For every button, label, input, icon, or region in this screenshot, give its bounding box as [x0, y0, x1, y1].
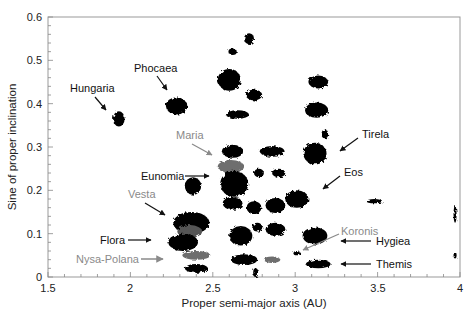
label-eunomia: Eunomia	[141, 170, 185, 182]
cluster-eunomia	[220, 171, 248, 197]
y-tick-label: 0.1	[27, 228, 42, 240]
cluster	[185, 177, 201, 194]
label-themis: Themis	[376, 258, 413, 270]
cluster	[226, 110, 249, 119]
label-hungaria: Hungaria	[70, 82, 116, 94]
cluster	[252, 223, 262, 232]
y-tick-label: 0	[36, 271, 42, 283]
cluster	[454, 252, 457, 258]
cluster	[244, 33, 254, 44]
x-tick-label: 2.5	[205, 282, 220, 294]
cluster	[366, 199, 382, 203]
y-tick-label: 0.3	[27, 141, 42, 153]
cluster	[228, 48, 236, 55]
x-tick-label: 4	[457, 282, 463, 294]
cluster-themis	[306, 260, 331, 269]
y-tick-label: 0.4	[27, 98, 42, 110]
label-tirela: Tirela	[362, 128, 390, 140]
y-axis-title: Sine of proper inclination	[6, 84, 18, 211]
y-tick-labels: 0 0.1 0.2 0.3 0.4 0.5 0.6	[27, 11, 42, 283]
x-tick-label: 3.5	[370, 282, 385, 294]
cluster	[454, 206, 457, 223]
cluster-phocaea	[166, 97, 187, 114]
cluster-hygiea	[303, 227, 328, 244]
cluster	[308, 76, 328, 89]
label-phocaea: Phocaea	[134, 62, 178, 74]
cluster	[260, 146, 285, 157]
x-axis-title: Proper semi-major axis (AU)	[181, 297, 326, 309]
cluster	[264, 256, 280, 263]
cluster-hungaria	[113, 111, 125, 126]
label-maria: Maria	[176, 129, 204, 141]
cluster	[266, 223, 286, 236]
cluster	[272, 169, 285, 178]
x-tick-label: 2	[127, 282, 133, 294]
scatter-chart: 1.5 2 2.5 3 3.5 4 0 0.1 0.2 0.3 0.4 0.5 …	[0, 0, 473, 318]
cluster	[231, 254, 257, 265]
cluster	[266, 198, 286, 213]
x-tick-label: 1.5	[40, 282, 55, 294]
cluster	[294, 251, 301, 255]
cluster	[222, 145, 243, 158]
label-vesta: Vesta	[128, 188, 156, 200]
label-flora: Flora	[100, 234, 126, 246]
x-tick-labels: 1.5 2 2.5 3 3.5 4	[40, 282, 463, 294]
y-tick-label: 0.6	[27, 11, 42, 23]
cluster-maria	[218, 160, 244, 173]
y-tick-label: 0.5	[27, 54, 42, 66]
cluster	[246, 90, 262, 101]
cluster	[223, 197, 243, 210]
cluster-nysa-polana	[182, 251, 210, 260]
cluster	[305, 103, 328, 118]
cluster-eos-tirela-region	[303, 143, 326, 165]
cluster-flora	[168, 234, 198, 251]
cluster	[247, 201, 262, 214]
cluster	[253, 268, 258, 277]
y-tick-label: 0.2	[27, 184, 42, 196]
cluster	[185, 264, 208, 273]
cluster-eos	[285, 190, 308, 207]
cluster	[229, 226, 252, 246]
cluster	[322, 130, 329, 139]
label-koronis: Koronis	[341, 225, 379, 237]
cluster	[254, 169, 264, 178]
label-eos: Eos	[344, 166, 363, 178]
label-nysa-polana: Nysa-Polana	[76, 253, 140, 265]
label-hygiea: Hygiea	[376, 235, 411, 247]
cluster	[218, 69, 241, 91]
x-tick-label: 3	[292, 282, 298, 294]
